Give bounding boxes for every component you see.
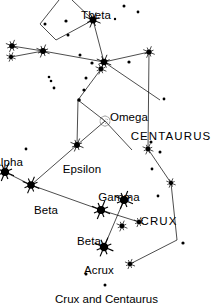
- faint-star: [85, 77, 88, 80]
- faint-star: [25, 148, 28, 151]
- star-star-hub-lower: [96, 64, 107, 75]
- cluster-stipple: [105, 126, 106, 127]
- cluster-stipple: [105, 121, 106, 122]
- faint-star: [82, 88, 85, 91]
- cluster-stipple: [106, 119, 107, 120]
- star-delta-crucis: [92, 201, 110, 219]
- cluster-stipple: [107, 116, 108, 117]
- star-star-hub-upper: [97, 55, 111, 69]
- cluster-stipple: [100, 122, 101, 123]
- constellation-line: [93, 20, 104, 62]
- faint-star: [44, 23, 47, 26]
- cluster-stipple: [104, 116, 105, 117]
- star-disc: [128, 262, 133, 267]
- label-omega: Omega: [110, 112, 148, 124]
- star-beta-crucis: [117, 221, 128, 232]
- constellation-line: [12, 46, 43, 51]
- figure-caption: Crux and Centaurus: [55, 294, 158, 305]
- faint-star: [48, 76, 51, 79]
- constellation-line: [148, 149, 171, 183]
- star-disc: [120, 224, 125, 229]
- cluster-stipple: [100, 119, 101, 120]
- faint-star: [67, 34, 70, 37]
- cluster-stipple: [100, 118, 101, 119]
- star-disc: [146, 147, 151, 152]
- star-disc: [99, 67, 104, 72]
- constellation-line: [78, 69, 101, 100]
- star-disc: [146, 49, 151, 54]
- constellation-line: [130, 240, 177, 264]
- faint-star: [137, 11, 140, 14]
- faint-star: [159, 151, 162, 154]
- label-theta: Theta: [81, 10, 111, 22]
- star-star-left-outer-b: [6, 52, 15, 61]
- constellation-line: [43, 51, 104, 62]
- cluster-stipple: [105, 123, 106, 124]
- constellation-line: [77, 121, 105, 145]
- constellation-line: [105, 121, 132, 150]
- cluster-stipple: [100, 123, 101, 124]
- cluster-stipple: [103, 116, 104, 117]
- constellation-line: [104, 62, 160, 100]
- star-disc: [74, 142, 80, 148]
- star-disc: [97, 206, 105, 214]
- faint-star: [79, 54, 82, 57]
- label-alpha: Alpha: [0, 157, 23, 169]
- faint-star: [50, 80, 53, 83]
- faint-star: [53, 87, 56, 90]
- star-disc: [27, 181, 35, 189]
- faint-star: [181, 241, 184, 244]
- cluster-stipple: [103, 125, 104, 126]
- cluster-stipple: [104, 126, 105, 127]
- faint-star: [151, 168, 154, 171]
- faint-star: [114, 18, 116, 20]
- faint-star: [64, 19, 67, 22]
- faint-star: [127, 60, 130, 63]
- cluster-stipple: [102, 116, 103, 117]
- sky-canvas: [0, 0, 213, 305]
- cluster-stipple: [103, 122, 104, 123]
- faint-star: [104, 284, 107, 287]
- cluster-stipple: [101, 117, 102, 118]
- star-beta-centauri: [23, 177, 40, 194]
- label-beta: Beta: [34, 205, 58, 217]
- star-disc: [40, 48, 46, 54]
- label-epsilon: Epsilon: [63, 164, 101, 176]
- constellation-line: [77, 100, 78, 145]
- cluster-stipple: [103, 120, 104, 121]
- cluster-stipple: [107, 122, 108, 123]
- cluster-stipple: [108, 124, 109, 125]
- star-disc: [101, 59, 108, 66]
- star-star-centaurus-lower: [125, 259, 135, 269]
- cluster-stipple: [102, 118, 103, 119]
- faint-star: [163, 98, 166, 101]
- star-star-left-outer-a: [6, 40, 18, 52]
- cluster-stipple: [105, 116, 106, 117]
- cluster-stipple: [102, 125, 103, 126]
- constellation-line: [40, 24, 56, 40]
- cluster-stipple: [107, 119, 108, 120]
- constellation-line: [40, 0, 59, 24]
- star-disc: [1, 168, 9, 176]
- cluster-stipple: [107, 125, 108, 126]
- star-chart-figure: ThetaOmegaCENTAURUSAlphaEpsilonBetaGamma…: [0, 0, 213, 305]
- star-disc: [9, 55, 13, 59]
- label-gamma: Gamma: [98, 192, 139, 204]
- faint-star: [123, 5, 126, 8]
- star-disc: [9, 43, 15, 49]
- constellation-line: [56, 20, 93, 40]
- faint-star: [90, 61, 93, 64]
- label-centaurus: CENTAURUS: [131, 131, 212, 143]
- label-crux: CRUX: [141, 216, 178, 228]
- star-star-iota-centauri: [37, 45, 50, 58]
- cluster-stipple: [106, 125, 107, 126]
- faint-star: [157, 195, 160, 198]
- constellation-line: [171, 183, 177, 240]
- cluster-stipple: [106, 116, 107, 117]
- constellation-line: [11, 51, 43, 57]
- faint-star: [77, 98, 81, 102]
- label-acrux: Acrux: [84, 265, 114, 277]
- star-disc: [169, 181, 173, 185]
- constellation-line: [104, 52, 149, 62]
- label-beta: Beta: [77, 236, 101, 248]
